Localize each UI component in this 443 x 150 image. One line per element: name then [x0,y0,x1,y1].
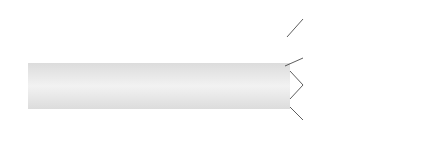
membrane-diagram [0,0,443,150]
lipid-bilayer-illustration [0,0,443,150]
